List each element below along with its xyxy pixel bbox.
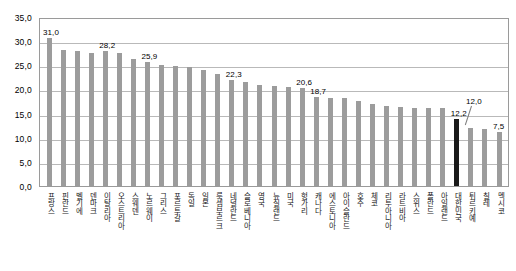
bar (370, 104, 375, 186)
x-axis-label-slot: 라트비아 (394, 190, 408, 268)
x-axis-category-label: 스웨덴 (129, 192, 137, 214)
x-axis-label-slot: 튀르키예 (464, 190, 478, 268)
x-axis-label-slot: 벨기에 (70, 190, 84, 268)
bar (468, 128, 473, 186)
x-axis-category-label: 튀르키예 (467, 192, 475, 222)
x-axis-category-label: 아이슬란드 (340, 192, 348, 229)
x-axis-label-slot: 룩셈부르크 (211, 190, 225, 268)
x-axis-category-label: 미국 (284, 192, 292, 207)
bar (497, 132, 502, 186)
x-axis-category-label: 캐나다 (312, 192, 320, 214)
bar-slot (56, 19, 70, 186)
y-axis-tick-label: 0,0 (20, 182, 32, 192)
bar-slot: 20,6 (295, 19, 309, 186)
bar (201, 70, 206, 186)
x-axis-label-slot: 프랑스 (42, 190, 56, 268)
x-axis-label-slot: 칠레 (478, 190, 492, 268)
bar (187, 67, 192, 186)
x-axis-category-label: 슬로베니아 (242, 192, 250, 229)
bar (300, 88, 305, 186)
y-axis-tick-label: 20,0 (15, 85, 32, 95)
bar (482, 129, 487, 186)
x-axis-category-label: 네덜란드 (228, 192, 236, 222)
bar (426, 108, 431, 186)
x-axis-category-label: 룩셈부르크 (214, 192, 222, 229)
x-axis-category-label: 체코 (368, 192, 376, 207)
bar-slot (183, 19, 197, 186)
x-axis-label-slot: 네덜란드 (225, 190, 239, 268)
y-axis-tick-label: 10,0 (15, 134, 32, 144)
bar-slot (408, 19, 422, 186)
bar-slot (126, 19, 140, 186)
bar (145, 62, 150, 186)
x-axis-label-slot: 포르투갈 (169, 190, 183, 268)
bar-slot (351, 19, 365, 186)
bar-slot: 12,0 (464, 19, 478, 186)
bar-slot (169, 19, 183, 186)
x-axis-label-slot: 그리스 (155, 190, 169, 268)
x-axis-category-label: 아일랜드 (439, 192, 447, 222)
x-axis-label-slot: 뉴질랜드 (267, 190, 281, 268)
x-axis-category-label: 이탈리아 (101, 192, 109, 222)
bar-value-label: 7,5 (493, 122, 504, 131)
y-axis-tick-label: 15,0 (15, 110, 32, 120)
x-axis-label-slot: 아이슬란드 (337, 190, 351, 268)
x-axis-label-slot: 멕시코 (492, 190, 506, 268)
x-axis-category-label: 호주 (354, 192, 362, 207)
bar (89, 53, 94, 186)
bar (286, 87, 291, 186)
bar (61, 50, 66, 187)
x-axis-category-label: 헝가리 (298, 192, 306, 214)
x-axis-category-label: 노르웨이 (143, 192, 151, 222)
bar-slot (323, 19, 337, 186)
bar-series: 31,028,225,922,320,618,712,212,07,5 (40, 19, 508, 186)
bar (103, 51, 108, 186)
x-axis-category-label: 일본 (200, 192, 208, 207)
x-axis-category-label: 에스토니아 (326, 192, 334, 229)
bar (159, 65, 164, 186)
y-axis-tick-label: 35,0 (15, 13, 32, 23)
x-axis-category-label: 포르투갈 (172, 192, 180, 222)
bar-slot (211, 19, 225, 186)
y-axis-tick-label: 5,0 (20, 158, 32, 168)
bar (117, 53, 122, 186)
x-axis-label-slot: 일본 (197, 190, 211, 268)
x-axis-label-slot: 스위스 (408, 190, 422, 268)
x-axis-labels: 프랑스핀란드벨기에덴마크이탈리아오스트리아스웨덴노르웨이그리스포르투갈독일일본룩… (40, 190, 508, 268)
x-axis-label-slot: 체코 (365, 190, 379, 268)
x-axis-category-label: 핀란드 (59, 192, 67, 214)
bar-slot: 7,5 (492, 19, 506, 186)
x-axis-label-slot: 리투아니아 (380, 190, 394, 268)
bar (131, 59, 136, 186)
bar (215, 74, 220, 186)
bar-slot (281, 19, 295, 186)
y-axis-tick-label: 30,0 (15, 37, 32, 47)
leader-line (465, 106, 472, 125)
bar (356, 101, 361, 186)
bar (229, 80, 234, 186)
x-axis-category-label: 그리스 (158, 192, 166, 214)
x-axis-category-label: 스위스 (411, 192, 419, 214)
x-axis-label-slot: 에스토니아 (323, 190, 337, 268)
bar-slot: 22,3 (225, 19, 239, 186)
bar (398, 107, 403, 186)
x-axis-label-slot: 미국 (281, 190, 295, 268)
x-axis-category-label: 칠레 (481, 192, 489, 207)
bar (243, 82, 248, 186)
x-axis-label-slot: 독일 (183, 190, 197, 268)
x-axis-category-label: 영국 (256, 192, 264, 207)
x-axis-category-label: 라트비아 (397, 192, 405, 222)
y-axis: 35,030,025,020,015,010,05,00,0 (0, 18, 36, 187)
x-axis-category-label: 벨기에 (73, 192, 81, 214)
x-axis-label-slot: 스웨덴 (126, 190, 140, 268)
x-axis-category-label: 오스트리아 (115, 192, 123, 229)
bar (328, 98, 333, 186)
bar (342, 98, 347, 186)
x-axis-category-label: 폴란드 (425, 192, 433, 214)
bar (412, 108, 417, 186)
x-axis-label-slot: 핀란드 (56, 190, 70, 268)
bar-slot (267, 19, 281, 186)
bar-slot: 12,2 (450, 19, 464, 186)
bar-slot: 31,0 (42, 19, 56, 186)
bar-slot (394, 19, 408, 186)
